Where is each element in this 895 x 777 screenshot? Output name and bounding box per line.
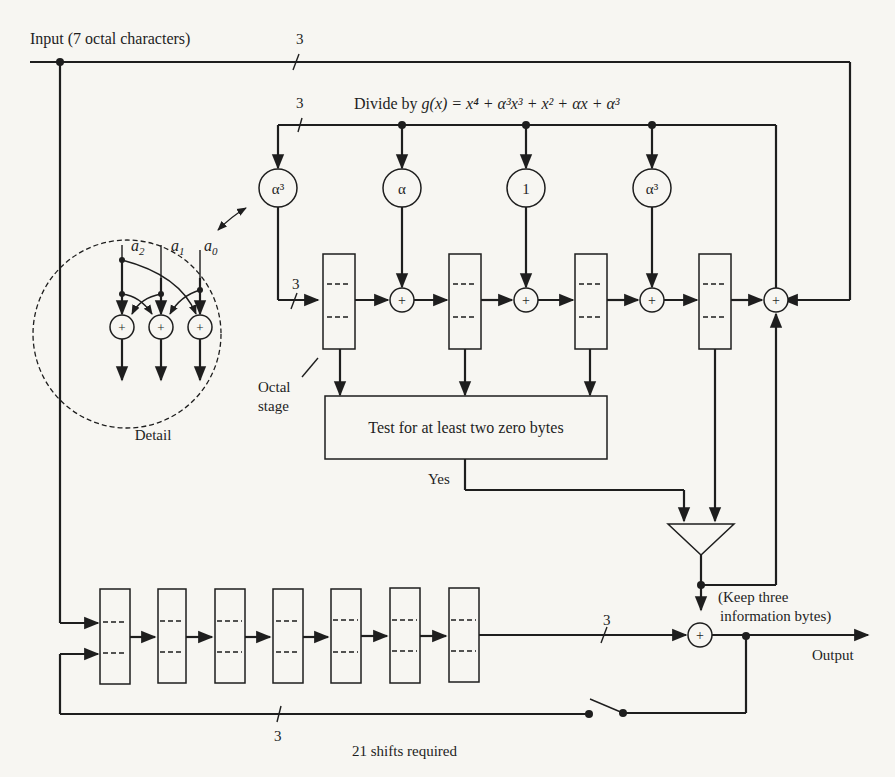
multiplier-alpha3-first: α³: [259, 169, 297, 207]
svg-text:+: +: [118, 320, 125, 335]
switch-icon: [590, 699, 623, 713]
gate-triangle: [668, 524, 734, 555]
multiplier-alpha: α: [383, 169, 421, 207]
multiplier-one: 1: [507, 169, 545, 207]
zero-byte-test-box: Test for at least two zero bytes: [325, 396, 607, 459]
svg-text:+: +: [398, 293, 406, 308]
input-bus-width-label: 3: [296, 31, 304, 47]
svg-text:+: +: [648, 293, 656, 308]
adder-2: +: [514, 288, 538, 312]
decoder-register-2: [449, 254, 481, 349]
loop-width-label: 3: [274, 728, 282, 744]
detail-label: Detail: [135, 427, 172, 443]
keep-label-1: (Keep three: [718, 589, 789, 606]
svg-text:1: 1: [522, 181, 530, 197]
svg-text:a2: a2: [131, 237, 145, 257]
buffer-output-width-label: 3: [603, 612, 611, 628]
divide-label: Divide by g(x) = x⁴ + α³x³ + x² + αx + α…: [354, 95, 620, 113]
svg-text:a1: a1: [171, 237, 185, 257]
decoder-register-3: [575, 254, 607, 349]
test-box-label: Test for at least two zero bytes: [368, 419, 563, 437]
svg-text:α: α: [398, 181, 406, 197]
detail-inset: a2 a1 a0 + + + Detail: [33, 208, 246, 443]
svg-text:+: +: [772, 293, 780, 308]
output-label: Output: [812, 647, 855, 663]
decoder-circuit-diagram: Input (7 octal characters) 3 3 Divide by…: [0, 0, 895, 777]
octal-stage-label-2: stage: [258, 398, 289, 414]
yes-label: Yes: [428, 471, 450, 487]
adder-3: +: [640, 288, 664, 312]
adder-final-syndrome: +: [764, 288, 788, 312]
shifts-label: 21 shifts required: [352, 743, 457, 759]
svg-text:+: +: [157, 320, 164, 335]
detail-link-arrow-icon: [218, 208, 246, 230]
multiplier-alpha3-last: α³: [633, 169, 671, 207]
svg-text:+: +: [196, 320, 203, 335]
svg-text:α³: α³: [646, 181, 659, 197]
octal-stage-label-1: Octal: [258, 379, 290, 395]
stage-input-width-label: 3: [292, 276, 300, 292]
decoder-register-1: [323, 254, 355, 349]
svg-text:α³: α³: [272, 181, 285, 197]
svg-text:+: +: [522, 293, 530, 308]
input-label: Input (7 octal characters): [30, 30, 190, 48]
keep-label-2: information bytes): [720, 608, 831, 625]
feedback-bus-width-label: 3: [296, 95, 304, 111]
output-adder: +: [688, 623, 712, 647]
adder-1: +: [390, 288, 414, 312]
decoder-register-4: [699, 254, 731, 349]
svg-text:a0: a0: [204, 237, 218, 257]
svg-text:+: +: [696, 628, 704, 643]
